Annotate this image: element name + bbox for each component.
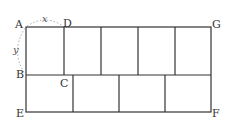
point-F: F xyxy=(212,107,220,120)
point-B: B xyxy=(16,68,24,81)
point-G: G xyxy=(212,18,221,31)
point-A: A xyxy=(14,18,24,31)
tiling-diagram: A D G B C E F x y xyxy=(0,0,231,121)
point-E: E xyxy=(16,107,24,120)
label-x: x xyxy=(42,13,48,24)
point-D: D xyxy=(63,17,72,30)
label-y: y xyxy=(12,44,19,55)
point-C: C xyxy=(60,77,68,90)
